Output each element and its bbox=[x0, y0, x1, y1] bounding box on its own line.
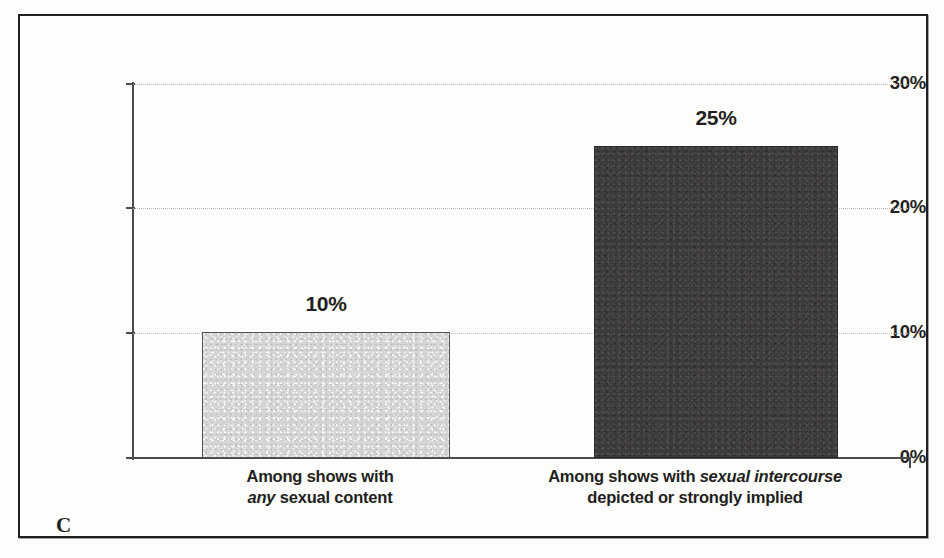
chart-figure: 30% 20% 10% 0% 10% 25% Among shows with … bbox=[0, 0, 944, 558]
plot-area: 10% 25% bbox=[133, 84, 910, 458]
bar-value-label-1: 10% bbox=[202, 292, 450, 316]
category-label-2: Among shows with sexual intercourse depi… bbox=[475, 466, 915, 508]
category-label-2-line1: Among shows with bbox=[548, 467, 700, 485]
category-label-1-emphasis: any bbox=[248, 488, 276, 506]
category-label-2-line2: depicted or strongly implied bbox=[587, 488, 802, 506]
figure-frame: 30% 20% 10% 0% 10% 25% Among shows with … bbox=[18, 14, 928, 538]
bar-value-label-2: 25% bbox=[594, 106, 838, 130]
bar-sexual-intercourse[interactable] bbox=[594, 146, 838, 458]
category-label-1-line1: Among shows with bbox=[246, 467, 393, 485]
category-label-1-line2: sexual content bbox=[275, 488, 392, 506]
category-label-1: Among shows with any sexual content bbox=[155, 466, 485, 508]
gridline-30 bbox=[133, 84, 910, 85]
bar-any-sexual-content[interactable] bbox=[202, 332, 450, 458]
panel-letter: C bbox=[56, 513, 71, 538]
category-label-2-emphasis: sexual intercourse bbox=[700, 467, 842, 485]
